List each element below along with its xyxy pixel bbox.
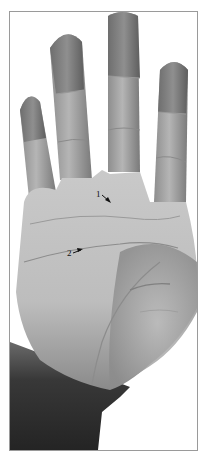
thumb-mound [109,244,197,388]
image-frame: 1 2 [9,11,198,451]
index-finger [154,62,188,202]
annotation-label-2: 2 [67,249,72,258]
middle-finger [108,12,140,172]
annotation-label-1: 1 [96,190,101,199]
ring-finger [50,34,92,180]
hand-photo [10,12,197,450]
